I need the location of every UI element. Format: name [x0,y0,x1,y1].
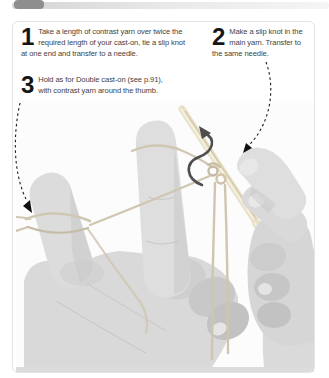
step-1-text: Take a length of contrast yarn over twic… [21,27,185,58]
step-2-text: Make a slip knot in the main yarn. Trans… [212,27,303,58]
photo-bottom-edge [16,367,314,372]
instruction-panel: 1Take a length of contrast yarn over twi… [12,21,315,373]
step-3-number: 3 [21,75,34,95]
step-3-text: Hold as for Double cast-on (see p.91), w… [38,75,163,95]
book-page: 1Take a length of contrast yarn over twi… [0,0,329,378]
step-3: 3Hold as for Double cast-on (see p.91), … [21,75,176,97]
step-2-number: 2 [212,27,225,47]
step-1: 1Take a length of contrast yarn over twi… [21,27,186,59]
step-2: 2Make a slip knot in the main yarn. Tran… [212,27,311,59]
page-top-bar [12,2,329,9]
page-top-tab [14,0,44,9]
cast-on-photo [16,101,314,374]
step-1-number: 1 [21,27,34,47]
